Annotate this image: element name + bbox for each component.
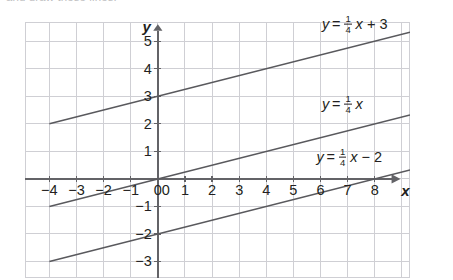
x-tick-label: 6 [316,183,324,198]
fraction-one-quarter: 14 [344,94,351,115]
equation-label-1: y = 14 x [322,94,363,115]
x-tick-label: 4 [262,183,270,198]
y-tick-label: 4 [144,62,152,77]
y-tick-label: −2 [135,227,152,242]
cut-off-instruction-text: and draw these lines. [6,0,117,3]
y-tick-label: 5 [144,34,152,49]
y-tick-label: 3 [144,89,152,104]
y-tick-label: −3 [135,254,152,269]
x-tick-label: 2 [208,183,216,198]
fraction-one-quarter: 14 [339,147,346,168]
x-tick-label: −1 [122,183,139,198]
x-tick-label: 7 [344,183,352,198]
y-tick-label: −1 [135,199,152,214]
x-axis-label: x [401,183,409,198]
equation-label-0: y = 14 x + 3 [322,14,388,35]
x-tick-label: −2 [95,183,112,198]
equation-label-2: y = 14 x − 2 [316,147,382,168]
x-tick-label: −3 [68,183,85,198]
y-tick-label: 1 [144,144,152,159]
x-tick-label: 5 [289,183,297,198]
y-tick-label: 2 [144,117,152,132]
origin-label: 0 [162,183,170,198]
x-tick-label: 1 [181,183,189,198]
x-tick-label: 0 [154,183,162,198]
y-axis-label: y [143,19,151,34]
x-tick-label: 3 [235,183,243,198]
x-tick-label: 8 [371,183,379,198]
x-tick-label: −4 [41,183,58,198]
fraction-one-quarter: 14 [344,14,351,35]
